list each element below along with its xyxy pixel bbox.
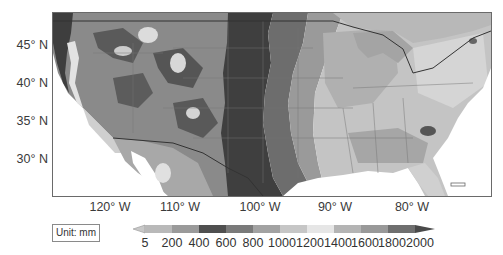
lat-label-30n: 30° N: [14, 152, 48, 166]
colorbar-tick: 1600: [351, 236, 379, 250]
colorbar-tick: 1400: [324, 236, 352, 250]
lon-label-80w: 80° W: [395, 200, 429, 214]
colorbar-min-extend-icon: [133, 225, 145, 233]
colorbar-tick: 400: [189, 236, 210, 250]
colorbar-tick: 600: [216, 236, 237, 250]
lon-label-120w: 120° W: [89, 200, 130, 214]
lat-label-45n: 45° N: [14, 38, 48, 52]
colorbar-tick: 800: [243, 236, 264, 250]
lon-label-110w: 110° W: [160, 200, 200, 214]
colorbar-tick: 2000: [406, 236, 434, 250]
colorbar-tick: 1000: [268, 236, 296, 250]
colorbar-tick: 1200: [296, 236, 324, 250]
lat-label-40n: 40° N: [14, 76, 48, 90]
precipitation-map: [52, 12, 492, 197]
map-canvas: [53, 13, 491, 196]
lon-label-100w: 100° W: [239, 200, 280, 214]
colorbar-max-extend-icon: [415, 225, 435, 233]
colorbar-tick: 5: [142, 236, 149, 250]
colorbar-tick: 1800: [378, 236, 406, 250]
unit-label: Unit: mm: [52, 224, 100, 242]
lat-label-35n: 35° N: [14, 114, 48, 128]
lon-label-90w: 90° W: [318, 200, 352, 214]
colorbar: [133, 223, 435, 235]
colorbar-tick: 200: [162, 236, 183, 250]
